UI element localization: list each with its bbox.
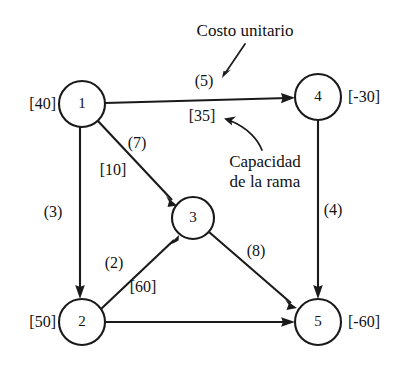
edge-2-3-capacity: [60] (130, 279, 157, 296)
edge-2-to-5 (105, 317, 295, 327)
node-2-label: 2 (78, 314, 86, 330)
edge-1-to-2 (75, 127, 85, 299)
edge-3-to-5-arrowhead (285, 300, 297, 311)
edge-1-to-4-arrowhead (281, 93, 295, 103)
edge-1-to-4-line (105, 98, 288, 103)
capacity-callout-leader (224, 117, 262, 151)
edge-1-3-capacity: [10] (100, 162, 127, 179)
edge-4-to-5 (313, 120, 323, 299)
edge-1-to-2-arrowhead (75, 285, 85, 299)
capacity-callout-label-line2: de la rama (230, 173, 301, 191)
edge-1-2-cost: (3) (44, 204, 63, 221)
capacity-callout-label-line1: Capacidad (229, 153, 301, 171)
capacity-callout-arrowhead (224, 117, 236, 126)
edge-2-to-5-arrowhead (281, 317, 295, 327)
capacity-callout-leader-path (231, 121, 262, 150)
cost-callout-leader-line (226, 44, 245, 72)
node-5-demand-label: [-60] (348, 314, 380, 331)
diagram-canvas (0, 0, 405, 366)
network-flow-diagram: 1 2 3 4 5 [40] [50] [-30] [-60] (5) (7) … (0, 0, 405, 366)
edge-2-to-3 (101, 235, 179, 309)
node-4-label: 4 (314, 89, 322, 105)
edge-1-to-4 (105, 93, 295, 103)
edge-4-to-5-arrowhead (313, 285, 323, 299)
edge-1-4-capacity: [35] (189, 108, 216, 125)
cost-callout-leader (222, 44, 245, 78)
node-1-supply-label: [40] (29, 96, 56, 113)
node-5-label: 5 (314, 314, 322, 330)
node-2-supply-label: [50] (29, 314, 56, 331)
edge-4-5-cost: (4) (324, 202, 343, 219)
node-3-label: 3 (189, 210, 197, 226)
edge-1-3-cost: (7) (128, 135, 147, 152)
edge-3-5-cost: (8) (247, 243, 266, 260)
cost-callout-label: Costo unitario (197, 22, 294, 40)
node-1-label: 1 (78, 96, 86, 112)
edge-2-to-3-line (101, 240, 174, 309)
edge-2-3-cost: (2) (105, 255, 124, 272)
edge-1-4-cost: (5) (195, 73, 214, 90)
node-4-demand-label: [-30] (348, 89, 380, 106)
